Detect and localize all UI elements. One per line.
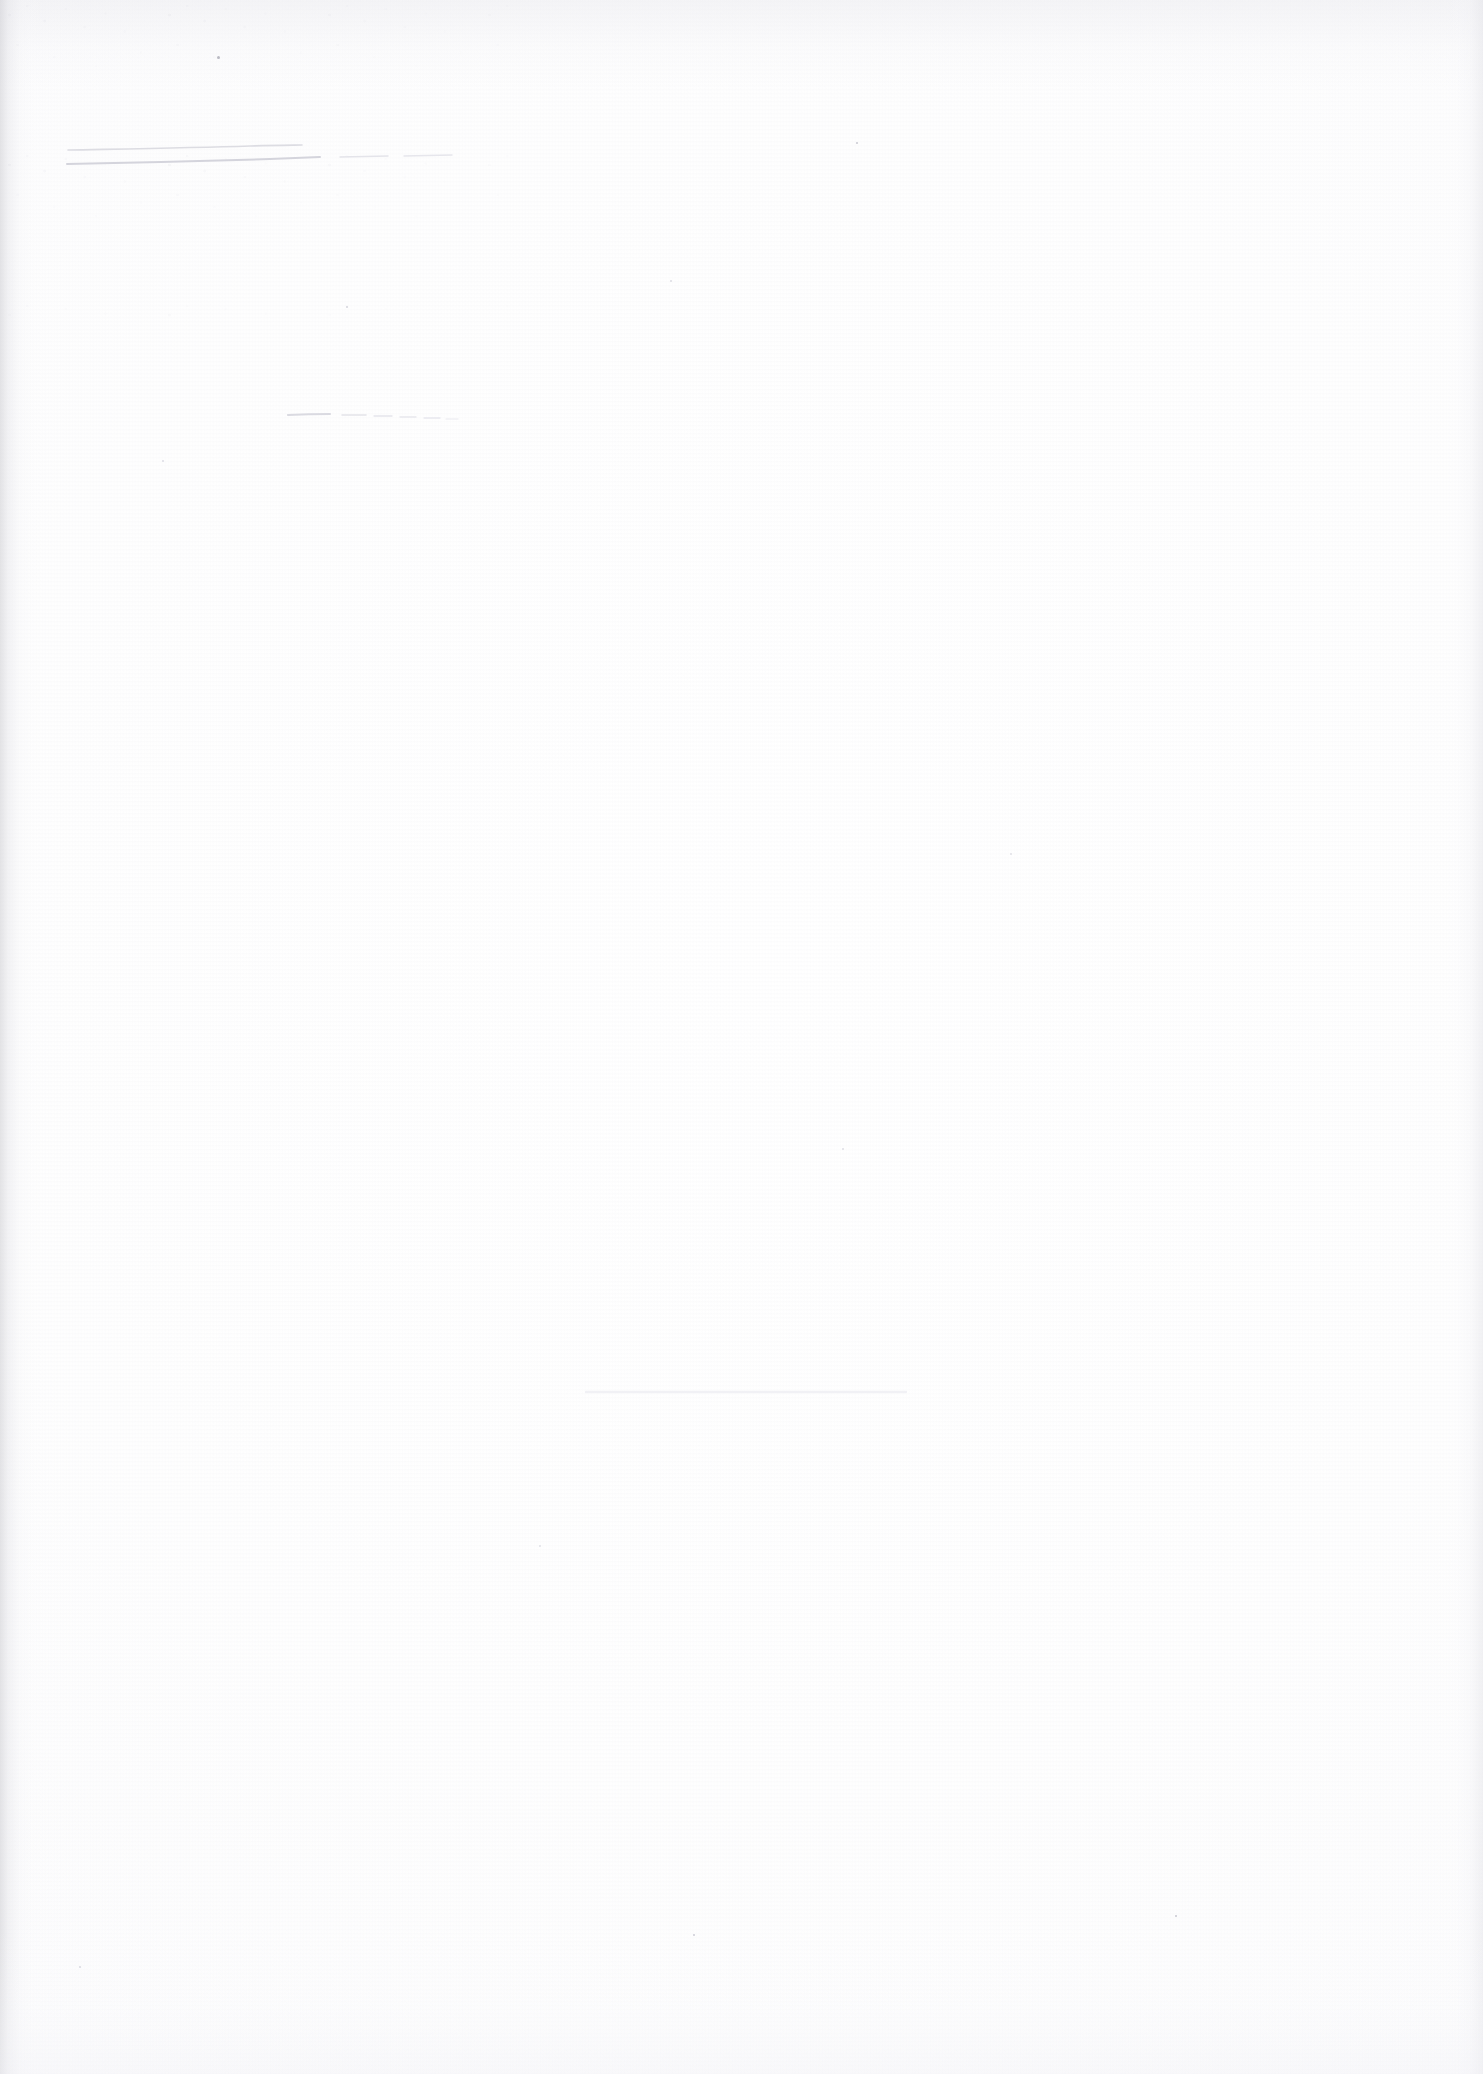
paper-background <box>0 0 1483 2074</box>
scanned-page <box>0 0 1483 2074</box>
